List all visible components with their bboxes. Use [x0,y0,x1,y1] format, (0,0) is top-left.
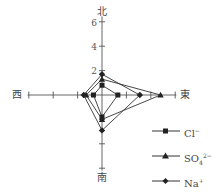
axis-label-south: 南 [97,173,107,183]
legend-label-na: Na+ [184,175,204,190]
legend-item-so4: SO42− [150,149,218,163]
square-marker-icon [91,93,96,98]
tick-label-2: 2 [91,67,97,76]
legend-label-so4: SO42− [184,150,212,169]
diamond-marker-icon [150,174,182,188]
series-outline [84,74,140,130]
legend-label-cl: Cl− [184,125,200,140]
square-marker-icon [115,93,120,98]
series-outline [86,79,160,119]
axis-label-west: 西 [12,90,22,100]
square-marker-icon [150,124,182,138]
series-2 [81,71,144,134]
axis-label-north: 北 [97,7,107,17]
tick-label-4: 4 [91,43,97,52]
triangle-marker-icon [150,149,182,163]
tick-label-6: 6 [91,19,97,28]
legend-item-na: Na+ [150,174,218,188]
legend-item-cl: Cl− [150,124,218,138]
square-marker-icon [100,83,105,88]
axis-label-east: 東 [180,90,190,100]
